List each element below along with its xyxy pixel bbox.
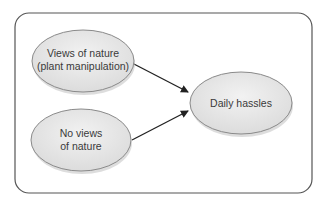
node-views-of-nature: Views of nature (plant manipulation) — [32, 30, 135, 95]
node-label: Views of nature — [47, 47, 119, 59]
node-no-views-of-nature: No views of nature — [31, 109, 132, 174]
node-label: Daily hassles — [210, 97, 272, 109]
node-daily-hassles: Daily hassles — [190, 72, 293, 137]
diagram-canvas: Views of nature (plant manipulation) No … — [0, 0, 332, 204]
node-label: (plant manipulation) — [37, 60, 129, 72]
node-label: No views — [60, 127, 103, 139]
node-label: of nature — [60, 140, 102, 152]
